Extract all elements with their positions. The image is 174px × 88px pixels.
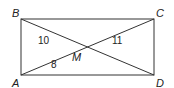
vertex-label-d: D (156, 77, 164, 88)
vertex-label-a: A (11, 77, 19, 88)
segment-label-bm: 10 (38, 35, 50, 46)
vertex-label-b: B (12, 7, 19, 19)
intersection-label-m: M (72, 51, 82, 63)
segment-label-am: 8 (51, 59, 57, 70)
vertex-label-c: C (156, 7, 164, 19)
segment-label-mc: 11 (112, 35, 123, 46)
rectangle-diagram: B C A D M 10 11 8 (0, 0, 174, 88)
